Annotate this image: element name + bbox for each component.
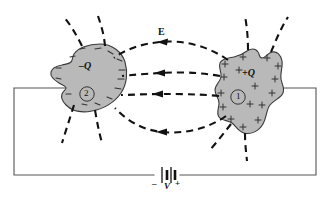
field-line-arrowheads (152, 39, 168, 136)
electric-field-lines (114, 42, 228, 133)
fringe-line-right-up-outer (271, 17, 288, 52)
fringe-line-left-up-inner (98, 16, 105, 46)
left-conductor-body (51, 44, 127, 112)
fringe-line-left-down-inner (95, 110, 102, 143)
physics-figure-capacitor-with-battery: –Q 2 +Q 1 E – V + (0, 0, 332, 199)
field-line-bottom (115, 108, 226, 132)
field-line-lower-mid (121, 94, 219, 96)
right-plate-number-label: 1 (236, 92, 241, 101)
left-plate-number-label: 2 (84, 89, 89, 98)
figure-canvas (0, 0, 332, 199)
left-conductor-charge-label: –Q (79, 61, 91, 71)
fringe-line-right-up-inner (245, 16, 248, 50)
fringe-line-left-down-outer (62, 105, 74, 143)
battery-voltage-label: V (164, 182, 170, 191)
left-conductor-shape (51, 44, 127, 112)
field-arrow-bottom (156, 129, 167, 136)
fringe-line-right-down-outer (209, 124, 231, 151)
fringe-line-left-up-outer (63, 16, 82, 46)
fringe-line-right-down-inner (245, 133, 247, 161)
field-arrow-top (157, 39, 168, 46)
battery-positive-terminal-label: + (175, 179, 180, 188)
electric-field-label: E (158, 27, 165, 37)
field-arrow-lower-mid (152, 91, 163, 98)
field-arrow-upper-mid (154, 70, 165, 77)
field-line-top (114, 42, 228, 60)
right-conductor-charge-label: +Q (242, 68, 255, 78)
field-line-upper-mid (122, 72, 220, 76)
battery-negative-terminal-label: – (152, 179, 157, 188)
